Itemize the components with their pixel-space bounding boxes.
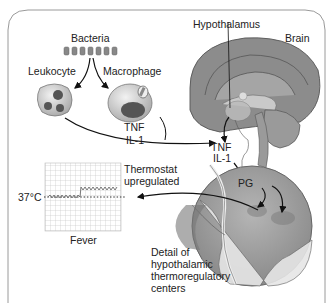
label-pg: PG: [238, 177, 253, 189]
label-thermostat: Thermostat: [124, 163, 177, 175]
label-upregulated: upregulated: [124, 175, 179, 187]
bacteria-icon: [64, 47, 117, 55]
label-hypothalamus: Hypothalamus: [193, 18, 260, 30]
label-detail-3: thermoregulatory: [151, 270, 230, 282]
fever-chart: [44, 163, 126, 231]
label-il1-2: IL-1: [213, 152, 231, 164]
label-brain: Brain: [285, 32, 310, 44]
brain-illustration: [190, 38, 320, 180]
label-il1: IL-1: [126, 134, 144, 146]
macrophage-icon: [108, 84, 152, 122]
label-fever: Fever: [70, 234, 97, 246]
label-temperature: 37°C: [18, 191, 41, 203]
label-detail-1: Detail of: [151, 246, 190, 258]
label-leukocyte: Leukocyte: [28, 65, 76, 77]
label-macrophage: Macrophage: [103, 65, 161, 77]
label-tnf: TNF: [124, 121, 144, 133]
label-detail-4: centers: [151, 282, 185, 294]
label-bacteria: Bacteria: [71, 32, 110, 44]
leukocyte-icon: [37, 84, 72, 116]
fever-pathogenesis-diagram: Bacteria Leukocyte Macrophage TNF IL-1 H…: [0, 0, 331, 303]
label-detail-2: hypothalamic: [151, 258, 213, 270]
